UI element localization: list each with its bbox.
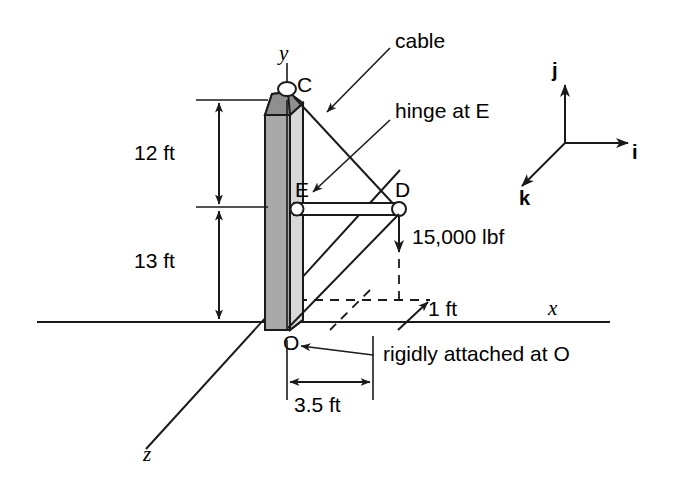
dimension-1ft-label: 1 ft — [428, 297, 457, 320]
force-label: 15,000 lbf — [412, 225, 504, 248]
point-c-label: C — [297, 73, 312, 96]
leader-cable — [327, 48, 390, 112]
annotation-cable-label: cable — [395, 29, 445, 52]
point-o-label: O — [283, 331, 299, 354]
axis-x-label: x — [547, 296, 558, 320]
dimension-vertical — [196, 100, 268, 322]
statics-diagram: x y z — [0, 0, 676, 489]
dimension-13ft-label: 13 ft — [134, 249, 175, 272]
leader-support — [301, 346, 373, 355]
annotation-hinge-label: hinge at E — [395, 99, 490, 122]
annotation-support-label: rigidly attached at O — [383, 342, 570, 365]
unit-vector-triad — [522, 85, 628, 186]
axis-y-label: y — [277, 41, 289, 65]
projection-lines — [298, 218, 430, 330]
point-d-label: D — [395, 178, 410, 201]
unit-vector-k-label: k — [519, 187, 531, 209]
dimension-1ft — [398, 302, 428, 330]
dimension-12ft-label: 12 ft — [134, 141, 175, 164]
unit-vector-j-label: j — [551, 59, 558, 81]
cable-line — [294, 97, 399, 210]
dimension-3p5ft — [287, 336, 373, 400]
dimension-3p5ft-label: 3.5 ft — [294, 393, 341, 416]
unit-vector-i-label: i — [632, 141, 638, 163]
axis-z-label: z — [142, 442, 151, 466]
point-c-pin — [278, 82, 296, 96]
strut-ed — [291, 202, 407, 216]
point-e-label: E — [295, 178, 309, 201]
